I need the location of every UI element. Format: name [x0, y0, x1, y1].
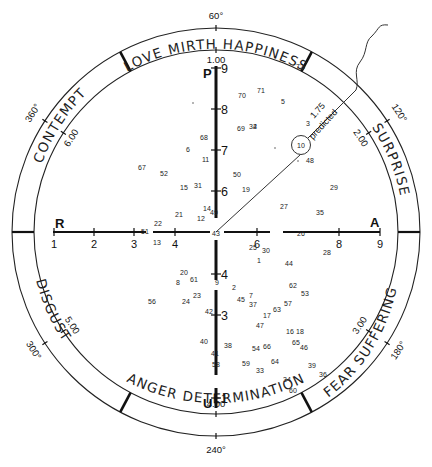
point-label: 50	[233, 171, 241, 178]
point-label: 17	[263, 312, 271, 319]
point-label: 29	[330, 184, 338, 191]
point-label: 28	[323, 249, 331, 256]
point-label: 42	[205, 308, 213, 315]
point-label: 11	[202, 156, 209, 163]
vertical-tick-label: 8	[221, 103, 228, 117]
stray-dot	[274, 147, 275, 148]
point-label: 34	[283, 376, 291, 383]
sector-separator	[120, 393, 130, 412]
stray-dot	[192, 102, 193, 103]
point-label: 60	[289, 387, 297, 394]
point-label: 46	[300, 344, 308, 351]
point-label: 5	[281, 98, 285, 105]
point-label: 44	[285, 260, 293, 267]
sector-label-contempt: CONTEMPT	[30, 84, 90, 165]
point-label: 30	[262, 247, 270, 254]
horizontal-tick-label: 2	[91, 238, 97, 250]
point-label: 64	[271, 358, 279, 365]
point-label: 8	[176, 279, 180, 286]
point-label: 3	[306, 120, 310, 127]
horizontal-tick-label: 3	[131, 238, 137, 250]
scale-tick	[366, 131, 371, 134]
scale-value: 6.00	[61, 127, 80, 149]
point-label: 6	[186, 146, 190, 153]
horizontal-tick-label: 8	[336, 238, 342, 250]
point-label: 19	[242, 186, 250, 193]
point-label: 9	[215, 279, 219, 286]
point-label: 47	[256, 322, 264, 329]
emotion-circle-diagram: LOVE MIRTH HAPPINESS SURPRISE FEAR SUFFE…	[0, 0, 432, 467]
point-label: 58	[212, 361, 220, 368]
point-label: 53	[301, 290, 309, 297]
degree-tick	[42, 119, 47, 122]
point-label: 41	[211, 350, 219, 357]
point-label: 65	[292, 339, 300, 346]
scale-value: 2.00	[351, 127, 370, 149]
point-label: 20	[180, 269, 188, 276]
point-label: 68	[200, 134, 208, 141]
point-label: 13	[153, 239, 161, 246]
horizontal-tick-label: 4	[172, 238, 178, 250]
degree-tick	[385, 341, 390, 344]
point-label: 70	[238, 92, 246, 99]
point-label: 49	[210, 209, 218, 216]
point-label: 61	[190, 276, 198, 283]
pole-r: R	[55, 216, 65, 231]
point-label: 15	[180, 184, 188, 191]
degree-tick	[385, 119, 390, 122]
point-label: 52	[160, 170, 168, 177]
point-label: 40	[200, 338, 208, 345]
point-label: 45	[237, 296, 245, 303]
vertical-tick-label: 1	[221, 392, 228, 406]
point-label: 4	[253, 123, 257, 130]
vertical-tick-label: 9	[221, 62, 228, 76]
stray-dot	[297, 160, 298, 161]
point-label: 57	[284, 300, 292, 307]
degree-tick	[42, 341, 47, 344]
sector-separator	[301, 393, 311, 412]
point-label: 48	[306, 157, 314, 164]
point-label: 38	[224, 342, 232, 349]
degree-mark: 240°	[206, 444, 226, 455]
point-label: 36	[319, 371, 327, 378]
point-label: 18	[296, 328, 304, 335]
point-label: 63	[273, 306, 281, 313]
point-label: 71	[257, 87, 265, 94]
pole-p: P	[203, 66, 212, 81]
pole-a: A	[370, 215, 380, 230]
point-label: 1	[257, 257, 261, 264]
point-label: 24	[182, 298, 190, 305]
point-label: 51	[141, 228, 149, 235]
point-label: 27	[280, 203, 288, 210]
point-label: 16	[286, 328, 294, 335]
degree-mark: 360°	[22, 101, 42, 124]
point-label: 23	[193, 292, 201, 299]
degree-mark: 300°	[24, 339, 44, 362]
point-label: 72	[296, 63, 304, 70]
point-label: 67	[138, 164, 146, 171]
vertical-tick-label: 3	[221, 309, 228, 323]
point-label: 26	[297, 230, 305, 237]
point-label: 21	[175, 211, 183, 218]
degree-mark: 180°	[388, 339, 408, 362]
horizontal-tick-label: 9	[377, 238, 383, 250]
point-label: 7	[249, 292, 253, 299]
vertical-tick-label: 4	[221, 268, 228, 282]
circled-point-10: 10	[297, 142, 305, 149]
point-label: 62	[289, 282, 297, 289]
point-label: 35	[316, 209, 324, 216]
point-label: 43	[212, 230, 220, 237]
pole-u: U	[203, 396, 212, 411]
prediction-line	[216, 155, 300, 232]
horizontal-tick-label: 1	[51, 238, 57, 250]
point-label: 39	[308, 362, 316, 369]
point-label: 69	[237, 125, 245, 132]
degree-mark: 60°	[209, 10, 224, 21]
point-label: 2	[232, 284, 236, 291]
point-label: 25	[249, 244, 257, 251]
wavy-pointer-line	[356, 25, 388, 90]
point-label: 37	[249, 301, 257, 308]
vertical-tick-label: 6	[221, 185, 228, 199]
point-label: 12	[197, 215, 205, 222]
point-label: 59	[242, 360, 250, 367]
